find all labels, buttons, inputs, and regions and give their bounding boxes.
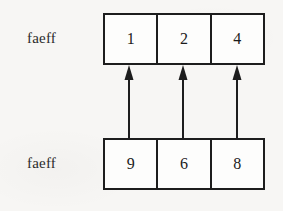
array-mapping-diagram: faeff 1 2 4 faeff 9 6 8 — [0, 0, 283, 211]
array-cell: 8 — [212, 140, 263, 188]
array-row-bottom: 9 6 8 — [103, 138, 265, 190]
array-cell: 1 — [105, 15, 158, 63]
row-label-top: faeff — [27, 31, 56, 46]
array-cell: 2 — [158, 15, 211, 63]
arrow-up-3 — [233, 65, 242, 138]
arrow-up-1 — [125, 65, 134, 138]
arrow-up-2 — [179, 65, 188, 138]
array-cell: 9 — [105, 140, 158, 188]
array-cell: 6 — [158, 140, 211, 188]
array-row-top: 1 2 4 — [103, 13, 265, 65]
row-label-bottom: faeff — [27, 156, 56, 171]
array-cell: 4 — [212, 15, 263, 63]
